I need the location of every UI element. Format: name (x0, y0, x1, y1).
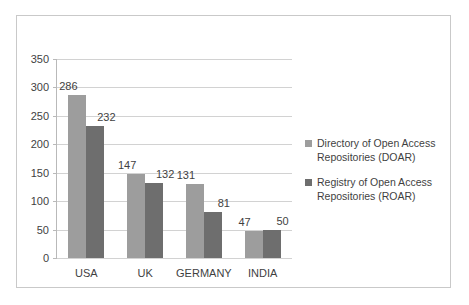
x-axis-category-label: USA (75, 267, 98, 279)
bar[interactable] (245, 231, 263, 258)
bar-group: 147132 (116, 59, 175, 258)
y-axis-tick-label: 200 (31, 138, 49, 150)
y-axis-tick-label: 350 (31, 53, 49, 65)
y-axis-tick (53, 258, 57, 259)
bar[interactable] (145, 183, 163, 258)
bar[interactable] (186, 184, 204, 258)
gridline (57, 258, 292, 259)
bar-value-label: 47 (239, 216, 251, 228)
bar[interactable] (86, 126, 104, 258)
y-axis-tick-label: 150 (31, 167, 49, 179)
legend-item[interactable]: Directory of Open AccessRepositories (DO… (305, 136, 445, 164)
bar[interactable] (263, 230, 281, 258)
x-axis-category-label: INDIA (248, 267, 277, 279)
x-axis-category-label: GERMANY (176, 267, 232, 279)
y-axis-tick-label: 100 (31, 195, 49, 207)
bar-value-label: 232 (97, 111, 115, 123)
y-axis-tick-label: 250 (31, 110, 49, 122)
bar-value-label: 50 (277, 215, 289, 227)
bar[interactable] (68, 95, 86, 258)
bars-layer: 286232147132131814750 (57, 59, 292, 258)
bar-value-label: 81 (218, 197, 230, 209)
bar-group: 4750 (233, 59, 292, 258)
legend-label: Registry of Open AccessRepositories (ROA… (317, 175, 432, 203)
bar-group: 13181 (175, 59, 234, 258)
legend-item[interactable]: Registry of Open AccessRepositories (ROA… (305, 175, 445, 203)
x-axis-category-label: UK (137, 267, 152, 279)
plot-area: 050100150200250300350 286232147132131814… (57, 59, 292, 258)
legend-label: Directory of Open AccessRepositories (DO… (317, 136, 435, 164)
y-axis-tick-label: 50 (37, 224, 49, 236)
chart-legend: Directory of Open AccessRepositories (DO… (305, 136, 445, 214)
bar-value-label: 147 (118, 159, 136, 171)
bar-value-label: 286 (59, 80, 77, 92)
bar[interactable] (127, 174, 145, 258)
y-axis-tick-label: 0 (43, 252, 49, 264)
bar[interactable] (204, 212, 222, 258)
bar-group: 286232 (57, 59, 116, 258)
y-axis-tick-label: 300 (31, 81, 49, 93)
bar-value-label: 131 (177, 169, 195, 181)
legend-swatch-icon (305, 179, 312, 186)
legend-swatch-icon (305, 140, 312, 147)
chart-frame: 050100150200250300350 286232147132131814… (16, 15, 451, 288)
bar-value-label: 132 (156, 168, 174, 180)
